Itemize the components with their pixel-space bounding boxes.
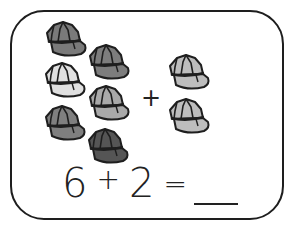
plus-sign: + [141, 86, 161, 110]
cap-icon [85, 127, 131, 167]
equation-plus: + [96, 166, 120, 194]
cap-icon [166, 97, 212, 137]
answer-blank[interactable] [194, 203, 238, 205]
cap-icon [166, 53, 212, 93]
equation: 6+2= [62, 163, 198, 203]
cap-icon [43, 20, 89, 60]
addend-b: 2 [129, 163, 155, 203]
equals-sign: = [163, 170, 187, 198]
cap-icon [86, 43, 132, 83]
cap-icon [42, 104, 88, 144]
addend-a: 6 [62, 163, 88, 203]
cap-icon [42, 61, 88, 101]
cap-icon [86, 84, 132, 124]
